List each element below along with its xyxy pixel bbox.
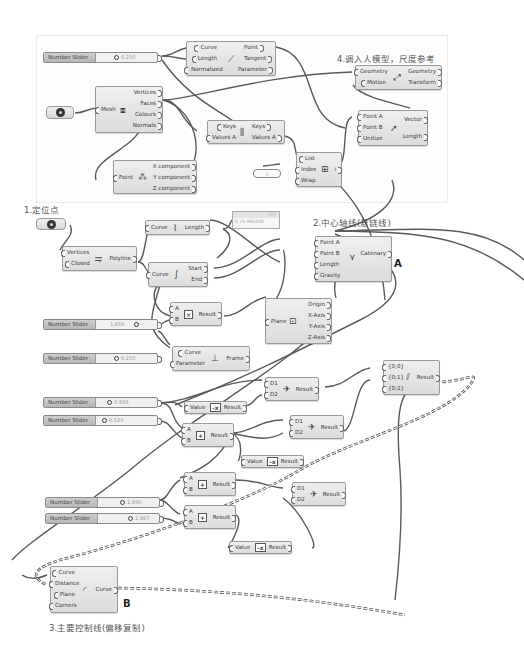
- output-result[interactable]: Result: [211, 432, 228, 439]
- output-result[interactable]: Result: [321, 424, 338, 431]
- output-z-axis[interactable]: Z-Axis: [308, 334, 325, 341]
- input-mesh[interactable]: Mesh: [101, 106, 116, 113]
- input-parameter[interactable]: Parameter: [176, 360, 205, 367]
- input-value[interactable]: Value: [190, 404, 205, 411]
- slider-track[interactable]: 2.987: [98, 514, 159, 523]
- input-curve[interactable]: Curve: [200, 44, 217, 51]
- output-parameter[interactable]: Parameter: [238, 66, 267, 73]
- merge-node-1[interactable]: D1 D2 ✈ Result: [265, 377, 319, 401]
- input-branch-0-1[interactable]: {0;1}: [388, 374, 404, 381]
- input-curve[interactable]: Curve: [184, 349, 201, 356]
- input-motion[interactable]: Motion: [367, 79, 386, 86]
- input-d2[interactable]: D2: [270, 391, 278, 398]
- deconstruct-mesh-node[interactable]: Mesh ⧈ Vertices Faces Colours Normals: [95, 86, 163, 133]
- input-d2[interactable]: D2: [297, 496, 305, 503]
- input-point-a[interactable]: Point A: [320, 239, 340, 246]
- output-z[interactable]: Z component: [153, 185, 190, 192]
- number-slider-4[interactable]: Number Slider 0.939: [43, 397, 158, 408]
- output-transform[interactable]: Transform: [408, 79, 436, 86]
- number-slider-1[interactable]: Number Slider 0.250: [43, 52, 158, 63]
- output-vertices[interactable]: Vertices: [134, 89, 156, 96]
- input-geometry[interactable]: Geometry: [360, 68, 388, 75]
- value-panel[interactable]: {0} 0 25.986308: [232, 211, 280, 229]
- input-a[interactable]: A: [187, 426, 191, 433]
- input-curve[interactable]: Curve: [152, 271, 169, 278]
- number-slider-3[interactable]: Number Slider 0.250: [43, 353, 158, 364]
- negative-node-2[interactable]: Value -x Result: [241, 455, 304, 468]
- input-distance[interactable]: Distance: [55, 580, 79, 587]
- number-slider-5[interactable]: Number Slider 0.520: [43, 415, 158, 426]
- input-branch-0-2[interactable]: {0;2}: [388, 385, 404, 392]
- output-values-a[interactable]: Values A: [252, 134, 276, 141]
- perp-frame-node[interactable]: Curve Parameter ⊥ Frame: [172, 346, 250, 371]
- list-item-node[interactable]: List Index Wrap ⊞ i: [296, 152, 342, 187]
- input-a[interactable]: A: [189, 475, 193, 482]
- deconstruct-point-node[interactable]: Point ⁂ X component Y component Z compon…: [113, 160, 197, 194]
- sort-list-node[interactable]: Keys Values A ⫼ Keys Values A: [207, 120, 285, 144]
- output-result[interactable]: Result: [213, 514, 230, 521]
- input-list[interactable]: List: [305, 155, 315, 162]
- input-point-b[interactable]: Point B: [320, 250, 340, 257]
- slider-knob-icon[interactable]: [114, 55, 119, 60]
- input-values-a[interactable]: Values A: [212, 134, 236, 141]
- output-result[interactable]: Result: [296, 386, 313, 393]
- output-y-axis[interactable]: Y-Axis: [309, 323, 325, 330]
- output-keys[interactable]: Keys: [252, 123, 265, 130]
- end-points-node[interactable]: Curve ∫ Start End: [148, 262, 208, 287]
- output-x[interactable]: X component: [153, 163, 190, 170]
- negative-node-1[interactable]: Value -x Result: [184, 401, 247, 414]
- output-frame[interactable]: Frame: [227, 355, 244, 362]
- output-y[interactable]: Y component: [153, 174, 190, 181]
- input-closed[interactable]: Closed: [71, 260, 90, 267]
- input-vertices[interactable]: Vertices: [67, 249, 89, 256]
- evaluate-length-node[interactable]: Curve Length Normalized ⟋ Point Tangent …: [186, 41, 276, 76]
- addition-node-2[interactable]: A B + Result: [184, 472, 236, 496]
- merge-node-2[interactable]: D1 D2 ✈ Result: [290, 415, 344, 439]
- addition-node-3[interactable]: A B + Result: [184, 505, 236, 529]
- input-point[interactable]: Point: [119, 174, 133, 181]
- output-normals[interactable]: Normals: [133, 122, 156, 129]
- input-point-b[interactable]: Point B: [363, 124, 383, 131]
- number-slider-2[interactable]: Number Slider 1.666: [43, 319, 158, 330]
- output-i[interactable]: i: [334, 166, 336, 173]
- output-vector[interactable]: Vector: [404, 116, 422, 123]
- merge-node-3[interactable]: D1 D2 ✈ Result: [292, 482, 346, 506]
- multiply-node[interactable]: A B × Result: [170, 302, 222, 326]
- input-point-a[interactable]: Point A: [363, 113, 383, 120]
- input-gravity[interactable]: Gravity: [320, 272, 340, 279]
- slider-knob-icon[interactable]: [128, 516, 133, 521]
- slider-track[interactable]: 0.250: [96, 53, 157, 62]
- index-value-input[interactable]: 0: [253, 169, 281, 178]
- catenary-node[interactable]: Point A Point B Length Gravity ⋎ Catenar…: [315, 236, 392, 282]
- output-result[interactable]: Result: [323, 491, 340, 498]
- move-node[interactable]: Geometry Motion ⤢ Geometry Transform: [355, 65, 442, 90]
- output-geometry[interactable]: Geometry: [408, 68, 436, 75]
- input-d1[interactable]: D1: [297, 485, 305, 492]
- output-x-axis[interactable]: X-Axis: [308, 312, 325, 319]
- output-catenary[interactable]: Catenary: [360, 250, 386, 257]
- input-b[interactable]: B: [175, 316, 179, 323]
- input-corners[interactable]: Corners: [55, 602, 77, 609]
- number-slider-6[interactable]: Number Slider 1.890: [45, 497, 160, 508]
- input-b[interactable]: B: [187, 437, 191, 444]
- input-a[interactable]: A: [189, 508, 193, 515]
- output-result[interactable]: Result: [269, 544, 286, 551]
- output-colours[interactable]: Colours: [135, 111, 156, 118]
- input-length[interactable]: Length: [320, 261, 339, 268]
- output-curve[interactable]: Curve: [95, 586, 112, 593]
- input-value[interactable]: Value: [235, 544, 250, 551]
- output-faces[interactable]: Faces: [140, 100, 156, 107]
- input-value[interactable]: Value: [247, 458, 262, 465]
- input-curve[interactable]: Curve: [151, 224, 168, 231]
- input-branch-0-0[interactable]: {0;0}: [388, 363, 404, 370]
- input-index[interactable]: Index: [301, 166, 316, 173]
- slider-knob-icon[interactable]: [102, 418, 107, 423]
- output-result[interactable]: Result: [281, 458, 298, 465]
- input-b[interactable]: B: [189, 519, 193, 526]
- output-tangent[interactable]: Tangent: [244, 55, 266, 62]
- input-d1[interactable]: D1: [270, 380, 278, 387]
- negative-node-3[interactable]: Value -x Result: [229, 541, 292, 554]
- output-point[interactable]: Point: [244, 44, 258, 51]
- output-length[interactable]: Length: [185, 224, 204, 231]
- slider-track[interactable]: 0.250: [96, 354, 157, 363]
